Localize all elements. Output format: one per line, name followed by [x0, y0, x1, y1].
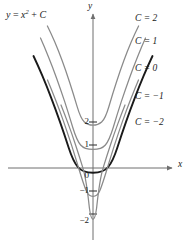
- parabola-family-figure: y = x2 + C y x 2 1 0 −1 −2 C = 2 C = 1 C…: [0, 0, 187, 246]
- y-tick-label-0: 0: [78, 171, 89, 180]
- curve-label-c-2: C = 2: [135, 14, 157, 24]
- y-tick-label-neg2: −2: [74, 216, 89, 225]
- y-tick-label-1: 1: [78, 140, 89, 149]
- equation-plus: +: [31, 9, 37, 20]
- y-tick-label-2: 2: [78, 117, 89, 126]
- y-axis-label: y: [88, 2, 92, 12]
- equation-annotation: y = x2 + C: [6, 10, 46, 20]
- curve-label-c-0: C = 0: [135, 64, 157, 74]
- y-tick-label-neg1: −1: [74, 186, 89, 195]
- curve-label-c-1: C = 1: [135, 37, 157, 47]
- equation-lhs: y: [6, 9, 10, 20]
- x-axis-label: x: [178, 160, 182, 170]
- curve-label-c-neg2: C = −2: [135, 118, 164, 128]
- equation-equals: =: [13, 9, 19, 20]
- equation-constant: C: [39, 9, 46, 20]
- curve-label-c-neg1: C = −1: [135, 92, 164, 102]
- equation-exponent: 2: [26, 8, 29, 15]
